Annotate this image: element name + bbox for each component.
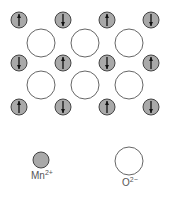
oxygen-ion [71, 71, 99, 99]
oxygen-ion [115, 71, 143, 99]
mn-symbol: Mn [31, 170, 45, 181]
oxygen-ion [27, 29, 55, 57]
mn-ion [11, 12, 27, 28]
o-symbol: O [122, 177, 130, 188]
legend-mn-label: Mn2+ [31, 169, 53, 181]
mn-ion [99, 55, 115, 71]
legend-o-symbol [115, 147, 143, 175]
lattice-diagram [0, 0, 174, 198]
mn-ion [99, 99, 115, 115]
oxygen-ion [115, 29, 143, 57]
mn-ion [55, 12, 71, 28]
mn-ion [11, 55, 27, 71]
mn-ion [55, 55, 71, 71]
legend-o-label: O2− [122, 176, 138, 188]
legend-mn-symbol [33, 152, 49, 168]
mn-ion [11, 99, 27, 115]
mn-ion [143, 55, 159, 71]
mn-ion [143, 12, 159, 28]
oxygen-ion [71, 29, 99, 57]
mn-ion [143, 99, 159, 115]
mn-charge: 2+ [45, 169, 53, 176]
oxygen-ion [27, 71, 55, 99]
o-charge: 2− [130, 176, 138, 183]
mn-ion [55, 99, 71, 115]
mn-ion [99, 12, 115, 28]
